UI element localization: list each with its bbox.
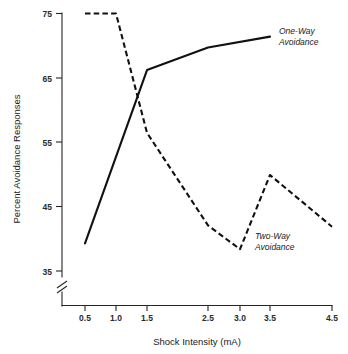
y-axis-break-icon bbox=[57, 281, 67, 293]
x-axis-title: Shock Intensity (mA) bbox=[153, 336, 241, 347]
series-label-one-way-avoidance: One-Way Avoidance bbox=[278, 26, 319, 47]
y-tick-label-45: 45 bbox=[43, 202, 53, 212]
y-tick-label-65: 65 bbox=[43, 74, 53, 84]
x-tick-label-1-5: 1.5 bbox=[141, 313, 153, 323]
x-tick-label-0-5: 0.5 bbox=[79, 313, 91, 323]
x-tick-marks bbox=[85, 306, 332, 312]
one-way-label-line1: One-Way bbox=[279, 26, 315, 36]
avoidance-line-chart: 75 65 55 45 35 0.5 1.0 1.5 2.5 3.0 3.5 4… bbox=[0, 0, 348, 354]
x-tick-label-1-0: 1.0 bbox=[110, 313, 122, 323]
y-tick-label-75: 75 bbox=[43, 9, 53, 19]
y-tick-label-35: 35 bbox=[43, 267, 53, 277]
chart-figure: 75 65 55 45 35 0.5 1.0 1.5 2.5 3.0 3.5 4… bbox=[0, 0, 348, 354]
series-two-way-avoidance-line bbox=[85, 14, 332, 250]
two-way-label-line2: Avoidance bbox=[254, 242, 295, 252]
series-label-two-way-avoidance: Two-Way Avoidance bbox=[254, 231, 295, 252]
x-tick-label-3-0: 3.0 bbox=[234, 313, 246, 323]
two-way-label-line1: Two-Way bbox=[255, 231, 291, 241]
x-tick-label-2-5: 2.5 bbox=[202, 313, 214, 323]
x-tick-label-4-5: 4.5 bbox=[326, 313, 338, 323]
one-way-label-line2: Avoidance bbox=[278, 37, 319, 47]
x-tick-label-3-5: 3.5 bbox=[264, 313, 276, 323]
y-tick-label-55: 55 bbox=[43, 138, 53, 148]
y-tick-marks bbox=[56, 14, 62, 272]
y-axis-title: Percent Avoidance Responses bbox=[11, 94, 22, 223]
series-one-way-avoidance-line bbox=[85, 37, 270, 244]
